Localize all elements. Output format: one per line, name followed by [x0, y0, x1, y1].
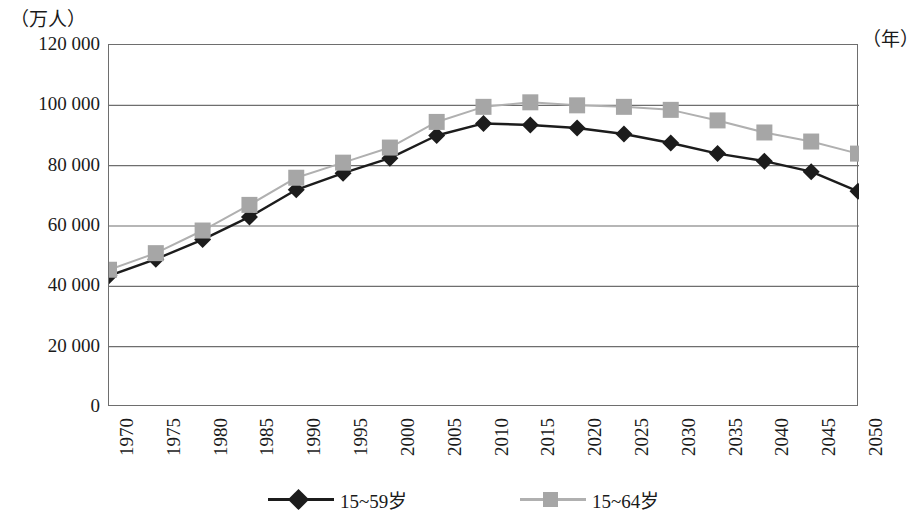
data-point-marker [148, 245, 164, 261]
data-point-marker [710, 112, 726, 128]
x-axis-tick-label: 1980 [211, 418, 230, 456]
data-point-marker [195, 223, 211, 239]
data-point-marker [382, 140, 398, 156]
x-axis-tick-label: 2000 [398, 418, 417, 456]
legend-key [520, 490, 586, 508]
legend-key [268, 490, 334, 508]
series-line-1 [109, 123, 858, 275]
x-axis-tick-label: 2010 [492, 418, 511, 456]
x-axis-tick-label: 2035 [726, 418, 745, 456]
data-point-marker [756, 153, 773, 170]
x-axis-tick-label: 2040 [772, 418, 791, 456]
data-point-marker [663, 102, 679, 118]
chart-container: （万人） 020 00040 00060 00080 000100 000120… [0, 0, 907, 516]
x-axis-unit-label: （年） [862, 24, 907, 51]
data-point-marker [569, 97, 585, 113]
y-axis-tick-label: 100 000 [4, 94, 100, 113]
x-axis-tick-label: 2020 [585, 418, 604, 456]
legend-square-marker-icon [543, 492, 558, 507]
data-point-marker [803, 134, 819, 150]
data-point-marker [850, 146, 859, 162]
data-point-marker [109, 262, 117, 278]
y-axis-tick-label: 60 000 [4, 215, 100, 234]
legend-item-1[interactable]: 15~59岁 [268, 486, 407, 512]
y-axis-tick-label: 20 000 [4, 336, 100, 355]
x-axis-tick-label: 2015 [538, 418, 557, 456]
legend-label: 15~59岁 [340, 486, 407, 513]
data-point-marker [241, 197, 257, 213]
chart-svg [109, 45, 859, 407]
data-point-marker [850, 183, 860, 200]
x-axis-tick-label: 2045 [819, 418, 838, 456]
data-point-marker [662, 135, 679, 152]
x-axis-tick-label: 2050 [866, 418, 885, 456]
x-axis-tick-label: 1970 [117, 418, 136, 456]
x-axis-tick-label: 2025 [632, 418, 651, 456]
x-axis-tick-labels: 1970197519801985199019952000200520102015… [0, 406, 907, 486]
x-axis-tick-label: 1995 [351, 418, 370, 456]
legend-diamond-marker-icon [288, 489, 309, 510]
x-axis-tick-label: 1985 [257, 418, 276, 456]
data-point-marker [429, 114, 445, 130]
data-point-marker [475, 115, 492, 132]
x-axis-tick-label: 1975 [164, 418, 183, 456]
y-axis-tick-label: 40 000 [4, 275, 100, 294]
data-point-marker [476, 99, 492, 115]
data-point-marker [615, 125, 632, 142]
x-axis-tick-label: 1990 [304, 418, 323, 456]
data-point-marker [569, 119, 586, 136]
data-point-marker [616, 99, 632, 115]
plot-area [108, 44, 858, 406]
data-point-marker [335, 155, 351, 171]
data-point-marker [522, 94, 538, 110]
y-axis-tick-label: 80 000 [4, 155, 100, 174]
legend-label: 15~64岁 [592, 486, 659, 513]
data-point-marker [522, 116, 539, 133]
data-point-marker [709, 145, 726, 162]
chart-legend: 15~59岁15~64岁 [0, 486, 907, 516]
x-axis-tick-label: 2030 [679, 418, 698, 456]
y-axis-tick-label: 120 000 [4, 34, 100, 53]
x-axis-tick-label: 2005 [445, 418, 464, 456]
data-point-marker [288, 170, 304, 186]
data-point-marker [756, 124, 772, 140]
legend-item-2[interactable]: 15~64岁 [520, 486, 659, 512]
